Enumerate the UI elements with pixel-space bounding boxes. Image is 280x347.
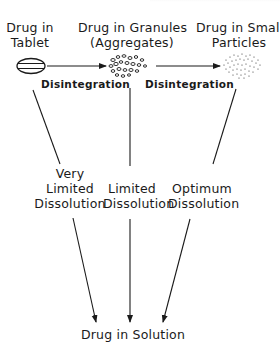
line-tablet-to-label xyxy=(33,90,60,164)
edge-limited-dissolution-label: Limited Dissolution xyxy=(103,181,161,211)
edge-disintegration-2-label: Disintegration xyxy=(145,78,234,90)
limited-line2: Dissolution xyxy=(103,196,161,211)
node-particles-line1: Drug in Small xyxy=(196,20,280,35)
edge-disintegration-1-label: Disintegration xyxy=(41,78,130,90)
arrow-tablet-to-solution xyxy=(73,218,96,322)
node-granules-label: Drug in Granules (Aggregates) xyxy=(78,20,186,50)
optimum-line2: Dissolution xyxy=(168,196,236,211)
node-particles-label: Drug in Small Particles xyxy=(196,20,280,50)
node-granules-line2: (Aggregates) xyxy=(78,35,186,50)
tablet-icon xyxy=(17,59,45,74)
node-tablet-line1: Drug in xyxy=(2,20,58,35)
very-limited-line3: Dissolution xyxy=(30,196,110,211)
node-particles-line2: Particles xyxy=(196,35,280,50)
optimum-line1: Optimum xyxy=(168,181,236,196)
node-tablet-label: Drug in Tablet xyxy=(2,20,58,50)
limited-line1: Limited xyxy=(103,181,161,196)
node-tablet-line2: Tablet xyxy=(2,35,58,50)
line-particles-to-label xyxy=(213,89,236,164)
arrow-particles-to-solution xyxy=(163,219,190,322)
small-particles-icon xyxy=(223,53,260,78)
edge-very-limited-dissolution-label: Very Limited Dissolution xyxy=(30,166,110,211)
node-solution-label: Drug in Solution xyxy=(78,327,188,342)
granules-icon xyxy=(109,55,147,78)
very-limited-line2: Limited xyxy=(30,181,110,196)
edge-optimum-dissolution-label: Optimum Dissolution xyxy=(168,181,236,211)
very-limited-line1: Very xyxy=(30,166,110,181)
node-granules-line1: Drug in Granules xyxy=(78,20,186,35)
